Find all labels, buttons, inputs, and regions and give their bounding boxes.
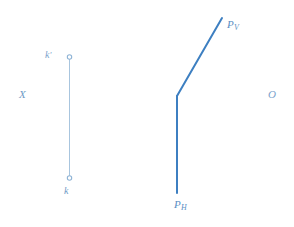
geometry-diagram-canvas <box>0 0 294 227</box>
point-marker-k-prime <box>67 55 71 59</box>
figure-root: X O k' k PV PH <box>0 0 294 227</box>
point-marker-k <box>67 176 71 180</box>
canvas-background <box>0 0 294 227</box>
